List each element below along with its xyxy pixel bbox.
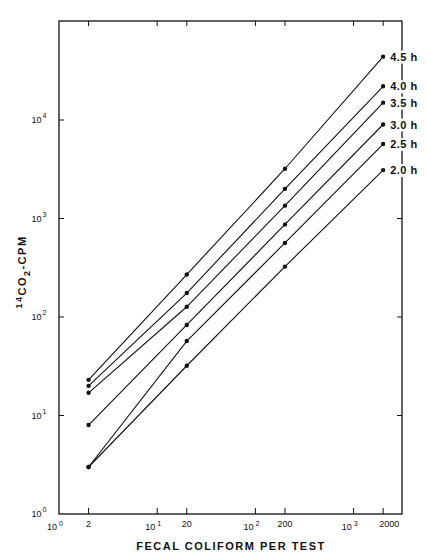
series-label: 2.5 h — [390, 138, 418, 150]
series-line-20 — [89, 170, 384, 467]
series-label: 3.0 h — [390, 119, 418, 131]
data-point — [86, 391, 90, 395]
data-point — [86, 384, 90, 388]
data-point — [185, 323, 189, 327]
data-series — [86, 54, 385, 469]
x-tick-label: 100 — [47, 520, 63, 532]
data-point — [185, 272, 189, 276]
x-value-tick-label: 20 — [182, 519, 192, 529]
x-value-tick-label: 2000 — [379, 519, 399, 529]
svg-text:14CO2-CPM: 14CO2-CPM — [14, 235, 32, 308]
data-point — [381, 122, 385, 126]
y-axis-title: 14CO2-CPM — [14, 235, 32, 308]
data-point — [185, 364, 189, 368]
plot-frame — [59, 21, 402, 514]
series-label: 4.0 h — [390, 80, 418, 92]
data-point — [86, 423, 90, 427]
y-tick-label: 103 — [32, 211, 47, 224]
data-point — [381, 100, 385, 104]
series-line-35 — [89, 103, 384, 393]
series-line-45 — [89, 57, 384, 380]
data-point — [185, 305, 189, 309]
x-value-tick-label: 2 — [86, 519, 91, 529]
data-point — [86, 378, 90, 382]
data-point — [283, 264, 287, 268]
x-value-tick-label: 200 — [277, 519, 292, 529]
x-tick-label: 102 — [243, 520, 259, 532]
series-label: 2.0 h — [390, 164, 418, 176]
y-tick-label: 102 — [32, 309, 47, 322]
data-point — [86, 465, 90, 469]
y-tick-label: 101 — [32, 408, 47, 421]
data-point — [381, 142, 385, 146]
x-tick-label: 101 — [145, 520, 161, 532]
data-point — [283, 241, 287, 245]
series-label: 3.5 h — [390, 97, 418, 109]
x-axis-title: FECAL COLIFORM PER TEST — [136, 540, 326, 552]
data-point — [381, 168, 385, 172]
y-axis-ticks: 100101102103104 — [32, 112, 402, 519]
y-tick-label: 100 — [32, 506, 47, 519]
y-tick-label: 104 — [32, 112, 47, 125]
series-line-30 — [89, 125, 384, 426]
data-point — [283, 222, 287, 226]
data-point — [381, 84, 385, 88]
series-line-25 — [89, 144, 384, 467]
data-point — [283, 187, 287, 191]
chart: 1001011021032202002000 100101102103104 4… — [0, 0, 427, 560]
series-label: 4.5 h — [390, 51, 418, 63]
data-point — [185, 339, 189, 343]
data-point — [283, 203, 287, 207]
data-point — [185, 291, 189, 295]
data-point — [381, 54, 385, 58]
series-line-40 — [89, 86, 384, 386]
x-tick-label: 103 — [342, 520, 358, 532]
data-point — [283, 167, 287, 171]
